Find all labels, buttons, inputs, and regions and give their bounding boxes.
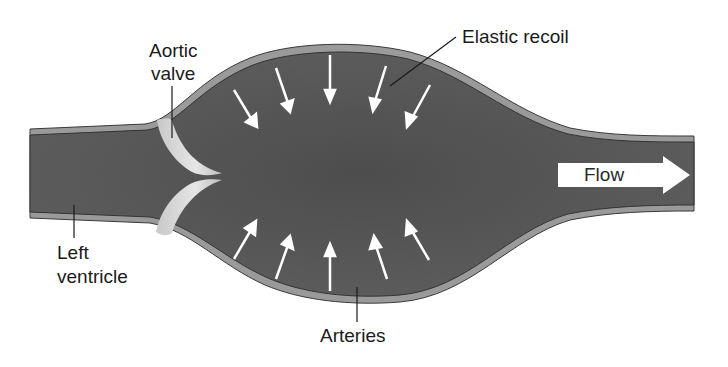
arteries-label: Arteries bbox=[320, 325, 385, 347]
flow-label: Flow bbox=[584, 164, 624, 186]
aortic-valve-label-line1: Aortic bbox=[149, 40, 198, 62]
left-ventricle-label-line2: ventricle bbox=[57, 266, 128, 288]
left-ventricle-label-line1: Left bbox=[57, 242, 89, 264]
aortic-valve-label-line2: valve bbox=[151, 63, 195, 85]
elastic-recoil-label: Elastic recoil bbox=[462, 26, 569, 48]
